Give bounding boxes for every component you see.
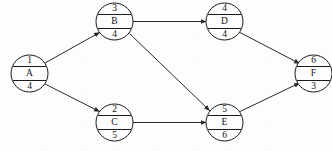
node-e-bottom-value: 6 [222, 130, 227, 140]
node-a-top-value: 1 [27, 55, 32, 65]
node-c-bottom-value: 5 [112, 130, 117, 140]
edge-d-to-f [239, 32, 300, 64]
node-e[interactable]: 5 E 6 [206, 104, 243, 141]
node-e-label: E [222, 117, 228, 127]
node-b-bottom-value: 4 [112, 29, 117, 39]
node-a-label: A [26, 68, 33, 78]
edge-b-to-e [130, 34, 210, 111]
node-b[interactable]: 3 B 4 [96, 3, 133, 40]
edge-a-to-c [45, 84, 100, 112]
node-a[interactable]: 1 A 4 [11, 55, 48, 92]
network-diagram-canvas: 1 A 4 3 B 4 2 C 5 4 D 4 [0, 0, 332, 151]
node-e-top-value: 5 [222, 104, 227, 114]
node-f[interactable]: 6 F 3 [295, 55, 332, 92]
node-b-top-value: 3 [112, 3, 117, 13]
node-a-bottom-value: 4 [27, 81, 32, 91]
node-c[interactable]: 2 C 5 [96, 104, 133, 141]
node-d[interactable]: 4 D 4 [206, 3, 243, 40]
node-c-top-value: 2 [112, 104, 117, 114]
node-f-top-value: 6 [311, 55, 316, 65]
node-b-label: B [111, 16, 117, 26]
node-d-bottom-value: 4 [222, 29, 227, 39]
node-d-label: D [221, 16, 228, 26]
edge-group [45, 22, 300, 123]
node-c-label: C [111, 117, 117, 127]
node-d-top-value: 4 [222, 3, 227, 13]
edge-e-to-f [239, 83, 300, 112]
edge-a-to-b [45, 33, 100, 64]
node-f-label: F [311, 68, 316, 78]
network-diagram: 1 A 4 3 B 4 2 C 5 4 D 4 [0, 0, 332, 151]
node-f-bottom-value: 3 [311, 81, 316, 91]
